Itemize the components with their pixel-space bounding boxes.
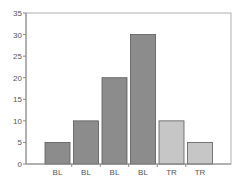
bar-5 [159,121,184,164]
x-axis: BLBLBLBLTRTR [26,164,231,177]
bar-2 [74,121,99,164]
y-tick-label: 10 [13,117,22,126]
y-tick-label: 5 [18,138,23,147]
x-category-label: BL [110,168,120,177]
y-tick-label: 35 [13,9,22,18]
y-tick-label: 25 [13,52,22,61]
bars [45,35,213,164]
y-tick-label: 0 [18,160,23,169]
plot-frame [26,13,231,164]
y-tick-label: 30 [13,31,22,40]
bar-4 [131,35,156,164]
x-category-label: BL [138,168,148,177]
bar-6 [188,142,213,164]
y-tick-label: 20 [13,74,22,83]
bar-1 [45,142,70,164]
y-axis: 05101520253035 [13,9,26,169]
x-category-label: BL [53,168,63,177]
bar-3 [102,78,127,164]
y-tick-label: 15 [13,95,22,104]
x-category-label: TR [195,168,206,177]
x-category-label: BL [81,168,91,177]
x-category-label: TR [166,168,177,177]
bar-chart: 05101520253035 BLBLBLBLTRTR [0,0,248,187]
